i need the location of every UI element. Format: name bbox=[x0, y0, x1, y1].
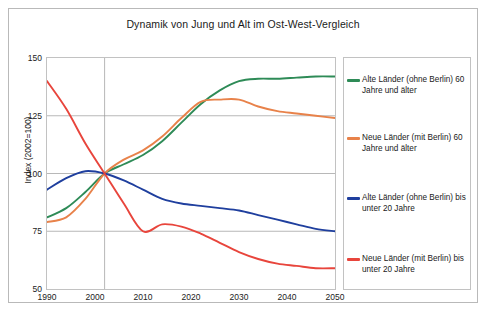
y-axis-tick-labels: Index (2002=100) 5075100125150 bbox=[4, 57, 42, 290]
legend-entry-2: Alte Länder (ohne Berlin) bis unter 20 J… bbox=[347, 193, 469, 214]
chart-figure: Dynamik von Jung und Alt im Ost-West-Ver… bbox=[0, 0, 486, 317]
plot-area-wrapper bbox=[46, 57, 336, 290]
x-tick-label-2050: 2050 bbox=[315, 292, 355, 302]
legend-label-3: Neue Länder (mit Berlin) bis unter 20 Ja… bbox=[362, 254, 469, 275]
legend-entry-0: Alte Länder (ohne Berlin) 60 Jahre und ä… bbox=[347, 75, 469, 96]
x-tick-label-2030: 2030 bbox=[219, 292, 259, 302]
x-tick-label-2040: 2040 bbox=[267, 292, 307, 302]
legend-label-0: Alte Länder (ohne Berlin) 60 Jahre und ä… bbox=[362, 75, 469, 96]
x-tick-label-2020: 2020 bbox=[171, 292, 211, 302]
series-line-0 bbox=[47, 76, 335, 217]
x-axis-tick-labels: 1990200020102020203020402050 bbox=[46, 292, 336, 306]
x-tick-label-2000: 2000 bbox=[75, 292, 115, 302]
chart-plot-svg bbox=[47, 58, 335, 289]
y-tick-label-75: 75 bbox=[8, 226, 42, 236]
legend-label-2: Alte Länder (ohne Berlin) bis unter 20 J… bbox=[362, 193, 469, 214]
legend-color-swatch-2 bbox=[347, 197, 360, 200]
legend-entry-3: Neue Länder (mit Berlin) bis unter 20 Ja… bbox=[347, 254, 469, 275]
y-tick-label-125: 125 bbox=[8, 111, 42, 121]
x-tick-label-1990: 1990 bbox=[27, 292, 67, 302]
legend-color-swatch-3 bbox=[347, 258, 360, 261]
legend-entry-1: Neue Länder (mit Berlin) 60 Jahre und äl… bbox=[347, 133, 469, 154]
chart-title: Dynamik von Jung und Alt im Ost-West-Ver… bbox=[9, 18, 477, 30]
legend-color-swatch-0 bbox=[347, 79, 360, 82]
x-tick-label-2010: 2010 bbox=[123, 292, 163, 302]
series-line-1 bbox=[47, 99, 335, 222]
legend-label-1: Neue Länder (mit Berlin) 60 Jahre und äl… bbox=[362, 133, 469, 154]
chart-legend: Alte Länder (ohne Berlin) 60 Jahre und ä… bbox=[343, 57, 471, 290]
legend-color-swatch-1 bbox=[347, 137, 360, 140]
y-tick-label-100: 100 bbox=[8, 169, 42, 179]
plot-area bbox=[46, 57, 336, 290]
series-line-2 bbox=[47, 171, 335, 231]
y-tick-label-150: 150 bbox=[8, 53, 42, 63]
y-axis-title: Index (2002=100) bbox=[23, 80, 33, 220]
